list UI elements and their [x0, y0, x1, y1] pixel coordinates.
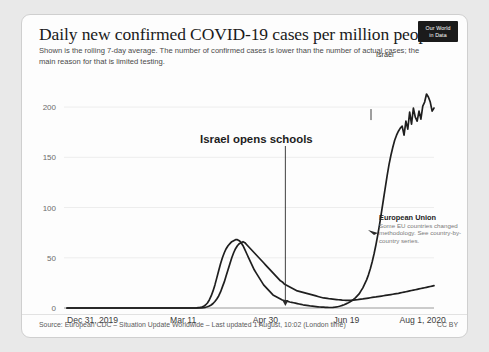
annotation-israel-opens-schools: Israel opens schools: [200, 133, 313, 145]
eu-label-note: Some EU countries changed methodology. S…: [379, 222, 465, 244]
chart-title: Daily new confirmed COVID-19 cases per m…: [39, 24, 419, 45]
y-axis-tick-label: 50: [22, 253, 56, 262]
plot-area: 050100150200: [22, 70, 468, 315]
logo-line-2: in Data: [429, 32, 446, 38]
y-axis-tick-label: 0: [22, 304, 56, 313]
y-axis-tick-label: 100: [22, 203, 56, 212]
screenshot-root: Daily new confirmed COVID-19 cases per m…: [0, 0, 489, 352]
y-axis-tick-label: 200: [22, 103, 56, 112]
series-label-israel: Israel: [376, 50, 394, 59]
chart-card: Daily new confirmed COVID-19 cases per m…: [21, 14, 468, 338]
our-world-in-data-logo[interactable]: Our World in Data: [418, 21, 458, 42]
eu-label-title: European Union: [379, 213, 465, 222]
license-text[interactable]: CC BY: [437, 321, 458, 328]
chart-subtitle: Shown is the rolling 7-day average. The …: [39, 46, 429, 67]
chart-footer: Source: European CDC – Situation Update …: [22, 314, 468, 337]
y-axis-tick-label: 150: [22, 153, 56, 162]
source-text: Source: European CDC – Situation Update …: [39, 321, 346, 328]
series-label-european-union: European Union Some EU countries changed…: [379, 213, 465, 244]
y-axis-labels: 050100150200: [22, 70, 468, 315]
